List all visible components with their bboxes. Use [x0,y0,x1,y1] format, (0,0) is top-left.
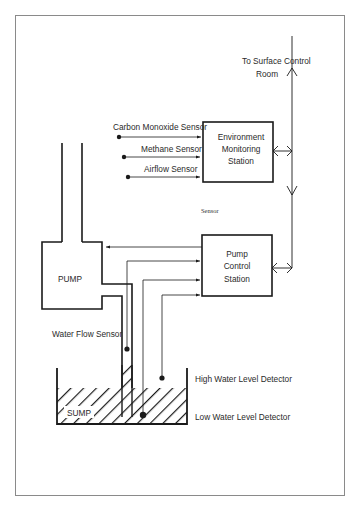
diagram-canvas: To Surface Control Room Environment Moni… [0,0,362,508]
svg-text:Room: Room [256,69,278,79]
svg-text:Carbon Monoxide Sensor: Carbon Monoxide Sensor [113,122,207,132]
surface-link-label: To Surface Control Room [242,56,311,79]
pump-station-label: Pump Control Station [224,249,251,284]
svg-text:To Surface Control: To Surface Control [242,56,311,66]
sensor-airflow: Airflow Sensor [126,164,200,179]
sump-label: SUMP [67,408,91,418]
bidirectional-arrow-icon [272,263,292,273]
pump-label: PUMP [58,274,82,284]
high-water-detector-label: High Water Level Detector [195,374,292,384]
surface-link-line [287,36,297,268]
svg-text:Monitoring: Monitoring [222,144,261,154]
water-flow-sensor-dot-icon [124,346,129,351]
svg-text:Pump: Pump [226,249,248,259]
sensor-carbon-monoxide: Carbon Monoxide Sensor [113,122,207,139]
svg-text:Station: Station [224,274,250,284]
pipe-water-hatch [122,365,132,388]
pump-assembly [42,143,132,388]
svg-text:Environment: Environment [218,132,265,142]
svg-text:Control: Control [224,261,251,271]
sensor-methane: Methane Sensor [122,144,202,159]
bidirectional-arrow-icon [273,146,292,156]
high-water-detector-dot-icon [159,375,164,380]
svg-text:Station: Station [228,156,254,166]
low-water-detector-dot-icon [140,412,146,418]
water-flow-sensor-label: Water Flow Sensor [52,329,122,339]
stray-sensor-label: Sensor [201,207,220,214]
svg-text:Methane Sensor: Methane Sensor [141,144,202,154]
svg-text:Airflow Sensor: Airflow Sensor [144,164,198,174]
low-water-detector-label: Low Water Level Detector [195,412,290,422]
